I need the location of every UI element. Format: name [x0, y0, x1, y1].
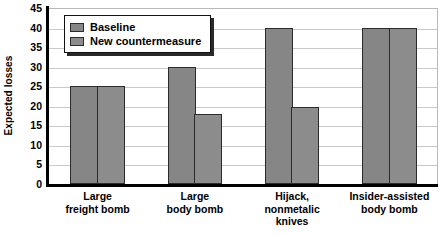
bar [389, 28, 417, 184]
bar [291, 107, 319, 184]
y-axis-tick-labels: 051015202530354045 [18, 8, 46, 184]
legend-swatch-new-countermeasure [70, 37, 84, 46]
bar [168, 67, 196, 184]
y-tick-label: 0 [36, 178, 42, 190]
bar [194, 114, 222, 184]
x-category-label-line: Hijack, [244, 190, 341, 203]
legend-swatch-baseline [70, 23, 84, 32]
x-category-label-line: Insider-assisted [341, 190, 438, 203]
bar-group [244, 9, 341, 184]
y-tick-label: 15 [30, 119, 42, 131]
x-category-label-line: freight bomb [49, 203, 146, 216]
y-tick-label: 40 [30, 22, 42, 34]
x-axis-category-labels: Largefreight bombLargebody bombHijack,no… [49, 190, 438, 236]
y-tick-label: 10 [30, 139, 42, 151]
bar [362, 28, 390, 184]
bar [97, 86, 125, 184]
chart-legend: BaselineNew countermeasure [64, 15, 211, 53]
legend-label: Baseline [90, 21, 135, 34]
y-tick-label: 45 [30, 2, 42, 14]
x-category-label: Largebody bomb [146, 190, 243, 215]
bar-chart: Expected losses 051015202530354045 Basel… [0, 0, 441, 236]
y-tick-label: 35 [30, 41, 42, 53]
bar [70, 86, 98, 184]
y-axis-title-text: Expected losses [4, 55, 15, 135]
legend-label: New countermeasure [90, 35, 201, 48]
legend-item: Baseline [70, 20, 201, 34]
x-category-label-line: body bomb [146, 203, 243, 216]
x-category-label-line: Large [49, 190, 146, 203]
x-category-label-line: body bomb [341, 203, 438, 216]
x-category-label-line: Large [146, 190, 243, 203]
y-tick-label: 20 [30, 100, 42, 112]
bar [265, 28, 293, 184]
x-category-label-line: nonmetalic [244, 203, 341, 216]
x-category-label: Largefreight bomb [49, 190, 146, 215]
bar-group [341, 9, 438, 184]
x-category-label: Insider-assistedbody bomb [341, 190, 438, 215]
legend-item: New countermeasure [70, 34, 201, 48]
y-tick-label: 25 [30, 80, 42, 92]
x-axis-line [46, 184, 438, 187]
y-tick-label: 5 [36, 158, 42, 170]
y-tick-label: 30 [30, 61, 42, 73]
y-axis-title: Expected losses [0, 0, 18, 190]
x-category-label-line: knives [244, 215, 341, 228]
x-category-label: Hijack,nonmetalicknives [244, 190, 341, 228]
